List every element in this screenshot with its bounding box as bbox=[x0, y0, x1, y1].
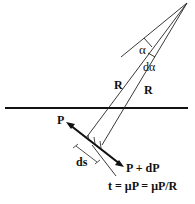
belt-friction-diagram: α dα R R P P + dP ds t = μP = μP/R bbox=[0, 0, 195, 204]
radius-left-label: R bbox=[114, 79, 123, 91]
radius-right-label: R bbox=[144, 84, 153, 96]
alpha-label: α bbox=[139, 43, 146, 56]
dalpha-label: dα bbox=[143, 61, 155, 73]
pressure-arrow-3 bbox=[100, 141, 101, 148]
diagram-lines bbox=[0, 0, 195, 204]
tension-out-label: P + dP bbox=[126, 162, 160, 174]
reference-line bbox=[121, 3, 187, 57]
arc-length-label: ds bbox=[76, 156, 87, 168]
equation-label: t = μP = μP/R bbox=[108, 180, 177, 192]
tension-in-label: P bbox=[57, 114, 64, 126]
radius-line-left bbox=[86, 3, 187, 138]
radius-line-right bbox=[102, 3, 187, 145]
dalpha-marker bbox=[148, 53, 155, 57]
